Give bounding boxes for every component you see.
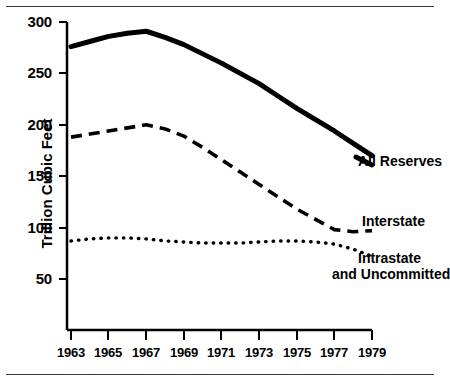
y-tick-label-250: 250 — [12, 64, 52, 81]
x-tick-label-1979: 1979 — [350, 345, 394, 360]
series-label-intrastate: Intrastate and Uncommitted — [358, 250, 450, 282]
x-tick-marks — [71, 330, 372, 340]
series-label-all-reserves: All Reserves — [358, 153, 442, 169]
y-tick-label-50: 50 — [12, 270, 52, 287]
y-tick-label-100: 100 — [12, 219, 52, 236]
y-tick-label-200: 200 — [12, 116, 52, 133]
axes-group — [59, 22, 372, 340]
series-group — [71, 31, 372, 256]
series-label-intrastate-line2: and Uncommitted — [332, 266, 450, 282]
series-label-interstate: Interstate — [362, 213, 425, 229]
series-line-intrastate — [71, 238, 372, 257]
series-line-interstate — [71, 125, 372, 232]
y-tick-label-150: 150 — [12, 167, 52, 184]
y-tick-label-300: 300 — [12, 13, 52, 30]
series-line-all-reserves — [71, 31, 372, 155]
series-label-intrastate-line1: Intrastate — [358, 250, 421, 266]
